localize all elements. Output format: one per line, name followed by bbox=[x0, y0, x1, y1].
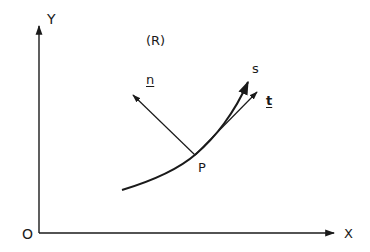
origin-label: O bbox=[22, 227, 33, 241]
tangent-label: t bbox=[266, 94, 272, 107]
normal-vector bbox=[133, 95, 195, 155]
tangent-vector bbox=[195, 92, 257, 155]
curve-s bbox=[122, 82, 248, 190]
y-axis-label: Y bbox=[47, 12, 56, 26]
x-axis-label: X bbox=[344, 227, 353, 240]
diagram-canvas bbox=[0, 0, 370, 252]
normal-label: n bbox=[146, 73, 154, 86]
point-label: P bbox=[198, 161, 206, 174]
curve-label: s bbox=[252, 62, 259, 75]
region-label: (R) bbox=[146, 34, 165, 47]
